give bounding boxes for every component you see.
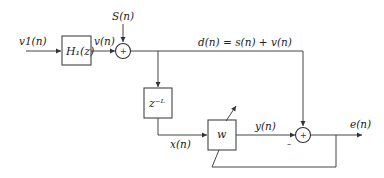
error-signal: e(n) bbox=[311, 118, 372, 135]
delay-block: z⁻ᴸ bbox=[144, 88, 172, 118]
plus-icon: + bbox=[120, 47, 127, 56]
error-label: e(n) bbox=[350, 118, 371, 130]
adaptive-filter-block: w bbox=[208, 106, 236, 150]
delay-label: z⁻ᴸ bbox=[148, 97, 166, 110]
x-signal: x(n) bbox=[158, 118, 207, 150]
v-label: v(n) bbox=[94, 35, 115, 47]
adaptive-noise-canceller-diagram: v1(n) H₁(z) v(n) S(n) + d(n) = s(n) + v(… bbox=[0, 0, 384, 178]
desired-label: d(n) = s(n) + v(n) bbox=[198, 36, 292, 48]
y-signal: y(n) – bbox=[236, 120, 295, 149]
h1-label: H₁(z) bbox=[65, 45, 94, 58]
x-label: x(n) bbox=[170, 138, 191, 150]
source-label: S(n) bbox=[112, 10, 134, 22]
v-signal: v(n) bbox=[91, 35, 115, 51]
minus-icon: – bbox=[287, 140, 291, 149]
y-label: y(n) bbox=[254, 120, 276, 132]
plus-icon: + bbox=[300, 131, 307, 140]
h1-block: H₁(z) bbox=[62, 36, 94, 65]
adaptation-arrow-icon bbox=[226, 106, 236, 121]
output-summer: + bbox=[296, 128, 311, 143]
source-signal: S(n) bbox=[112, 10, 134, 42]
input-summer: + bbox=[116, 44, 131, 59]
input-label: v1(n) bbox=[19, 35, 47, 47]
filter-label: w bbox=[217, 128, 227, 141]
input-signal: v1(n) bbox=[19, 35, 61, 51]
